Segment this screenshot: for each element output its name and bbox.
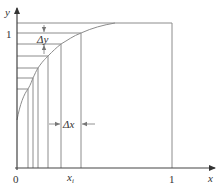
- delta-y-label: Δy: [36, 33, 48, 45]
- diagram-canvas: y 1 0 1 x xi Δy Δx: [0, 0, 222, 192]
- x-tick-one-label: 1: [169, 173, 175, 185]
- y-tick-one-label: 1: [6, 28, 12, 40]
- xi-label: xi: [66, 171, 74, 185]
- delta-x-label: Δx: [62, 118, 74, 130]
- x-axis-label: x: [207, 172, 213, 184]
- origin-label: 0: [13, 173, 19, 185]
- horizontal-strips: [17, 33, 81, 89]
- vertical-strips: [28, 33, 81, 168]
- diagram: y 1 0 1 x xi Δy Δx: [0, 0, 222, 192]
- y-axis-label: y: [4, 6, 10, 18]
- function-curve: [17, 23, 115, 120]
- xi-label-sub: i: [72, 177, 74, 185]
